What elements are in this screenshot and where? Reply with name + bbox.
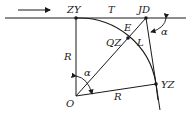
label-o: O xyxy=(66,98,74,109)
point-qz xyxy=(126,36,130,40)
label-l: L xyxy=(136,37,144,48)
label-r-vertical: R xyxy=(63,51,72,62)
point-jd xyxy=(144,16,148,20)
label-alpha-deflection: α xyxy=(161,26,168,37)
alpha-arc-center xyxy=(76,76,92,94)
label-jd: JD xyxy=(136,4,150,15)
label-qz: QZ xyxy=(106,37,122,48)
label-t: T xyxy=(108,4,116,15)
point-zy xyxy=(74,16,78,20)
bisector-o-jd xyxy=(76,18,146,96)
label-e: E xyxy=(123,22,132,33)
curve-diagram: ZY T JD E QZ L α R α O R YZ xyxy=(0,0,188,117)
label-r-bottom: R xyxy=(113,91,122,102)
label-alpha-center: α xyxy=(84,67,91,78)
label-zy: ZY xyxy=(66,4,82,15)
circular-arc xyxy=(76,18,158,100)
point-yz xyxy=(154,82,158,86)
label-yz: YZ xyxy=(161,79,176,90)
